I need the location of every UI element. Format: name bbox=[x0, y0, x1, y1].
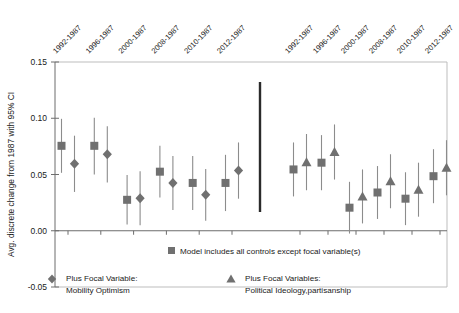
x-tick-label: 1996-1987 bbox=[84, 23, 116, 55]
data-point bbox=[90, 118, 98, 175]
data-point bbox=[386, 154, 396, 208]
data-point bbox=[189, 156, 197, 210]
data-point bbox=[201, 169, 210, 221]
x-tick-label: 1992-1987 bbox=[283, 23, 315, 55]
marker-triangle bbox=[386, 176, 396, 185]
y-tick-label: -0.05 bbox=[28, 282, 48, 292]
legend-marker-square bbox=[168, 247, 175, 254]
data-point bbox=[430, 149, 438, 203]
marker-square bbox=[123, 196, 131, 204]
data-point bbox=[123, 175, 131, 225]
data-point bbox=[222, 155, 230, 211]
legend-label-baseline: Model includes all controls except focal… bbox=[180, 247, 361, 256]
marker-triangle bbox=[302, 157, 312, 166]
data-point bbox=[156, 146, 164, 198]
legend-label-focal-left-line1: Plus Focal Variable: bbox=[66, 274, 137, 283]
x-tick-label: 2012-1987 bbox=[423, 23, 455, 55]
x-tick-label: 2008-1987 bbox=[149, 23, 181, 55]
data-point bbox=[70, 136, 79, 192]
right-panel bbox=[290, 124, 452, 233]
data-point bbox=[290, 142, 298, 196]
chart-legend: Model includes all controls except focal… bbox=[48, 247, 361, 295]
x-tick-label: 2000-1987 bbox=[117, 23, 149, 55]
y-tick-label: 0.05 bbox=[30, 170, 47, 180]
marker-triangle bbox=[414, 185, 424, 194]
marker-triangle bbox=[358, 191, 368, 200]
data-point bbox=[318, 135, 326, 190]
data-point bbox=[402, 172, 410, 225]
y-tick-label: 0.00 bbox=[30, 226, 47, 236]
marker-diamond bbox=[70, 159, 79, 169]
legend-marker-triangle bbox=[226, 274, 235, 282]
x-tick-label: 2000-1987 bbox=[339, 23, 371, 55]
data-point bbox=[234, 142, 243, 198]
data-point bbox=[346, 182, 354, 234]
data-point bbox=[168, 156, 177, 210]
y-tick-label: 0.10 bbox=[30, 113, 47, 123]
y-axis: -0.050.000.050.100.15 bbox=[28, 57, 59, 292]
legend-label-focal-right-line2: Political Ideology,partisanship bbox=[245, 286, 352, 295]
data-point bbox=[374, 166, 382, 219]
marker-diamond bbox=[103, 149, 112, 159]
data-point bbox=[136, 171, 145, 225]
x-tick-label: 2008-1987 bbox=[367, 23, 399, 55]
x-tick-label: 2010-1987 bbox=[395, 23, 427, 55]
marker-square bbox=[222, 179, 230, 187]
marker-diamond bbox=[201, 190, 210, 200]
marker-square bbox=[402, 195, 410, 203]
data-point bbox=[442, 140, 452, 195]
marker-triangle bbox=[442, 163, 452, 172]
marker-square bbox=[90, 142, 98, 150]
marker-square bbox=[58, 142, 66, 150]
x-tick-label: 1992-1987 bbox=[51, 23, 83, 55]
x-axis: 1992-19871996-19872000-19872008-19872010… bbox=[51, 23, 455, 234]
data-point bbox=[358, 169, 368, 223]
marker-square bbox=[156, 168, 164, 176]
data-point bbox=[103, 126, 112, 182]
y-axis-title: Avg. discrete change from 1987 with 95% … bbox=[6, 92, 16, 257]
marker-square bbox=[318, 159, 326, 167]
x-tick-label: 1996-1987 bbox=[311, 23, 343, 55]
legend-label-focal-right-line1: Plus Focal Variables: bbox=[245, 274, 320, 283]
data-point bbox=[58, 119, 66, 173]
x-tick-label: 2012-1987 bbox=[215, 23, 247, 55]
x-tick-label: 2010-1987 bbox=[182, 23, 214, 55]
data-point bbox=[330, 124, 340, 179]
marker-square bbox=[430, 172, 438, 180]
left-panel bbox=[58, 118, 244, 225]
data-point bbox=[302, 134, 312, 190]
legend-label-focal-left-line2: Mobility Optimism bbox=[66, 286, 130, 295]
y-tick-label: 0.15 bbox=[30, 57, 47, 67]
scatter-chart: -0.050.000.050.100.15Avg. discrete chang… bbox=[0, 0, 459, 313]
marker-square bbox=[290, 165, 298, 173]
marker-diamond bbox=[234, 166, 243, 176]
marker-diamond bbox=[168, 178, 177, 188]
figure-container: -0.050.000.050.100.15Avg. discrete chang… bbox=[0, 0, 459, 313]
marker-square bbox=[374, 189, 382, 197]
data-point bbox=[414, 163, 424, 217]
marker-triangle bbox=[330, 147, 340, 156]
marker-square bbox=[346, 204, 354, 212]
marker-diamond bbox=[136, 193, 145, 203]
svg-text:Avg. discrete change from 1987: Avg. discrete change from 1987 with 95% … bbox=[6, 92, 16, 257]
marker-square bbox=[189, 179, 197, 187]
